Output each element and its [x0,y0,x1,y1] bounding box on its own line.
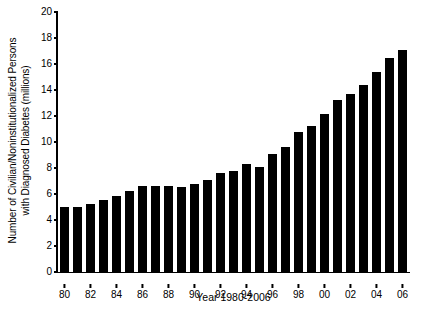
y-tick-mark [54,219,58,221]
bar [203,180,212,272]
y-tick-label: 6 [46,189,52,199]
y-tick-label: 12 [41,111,52,121]
x-tick-mark [168,284,170,288]
x-axis-title: Year 1980-2006 [58,291,409,303]
bar [242,164,251,272]
bar [255,167,264,272]
bar [73,207,82,272]
y-tick-label: 16 [41,59,52,69]
x-tick-mark [376,284,378,288]
y-axis-tick: 2 [46,241,58,251]
bar [333,100,342,272]
bar [216,173,225,272]
bar [268,154,277,272]
x-tick-mark [220,284,222,288]
bar [138,186,147,272]
y-axis-tick: 18 [41,33,58,43]
x-tick-mark [64,284,66,288]
bar [320,114,329,272]
y-tick-label: 2 [46,241,52,251]
x-tick-mark [324,284,326,288]
x-tick-mark [90,284,92,288]
bar [281,147,290,272]
y-tick-label: 0 [46,267,52,277]
y-tick-label: 4 [46,215,52,225]
y-tick-label: 10 [41,137,52,147]
bar [190,184,199,272]
x-tick-mark [194,284,196,288]
bar [385,58,394,272]
bar [307,126,316,272]
x-tick-mark [402,284,404,288]
bar [164,186,173,272]
bar [398,50,407,272]
x-tick-mark [350,284,352,288]
y-axis-tick: 6 [46,189,58,199]
bar [60,207,69,272]
y-axis-tick: 0 [46,267,58,277]
plot-area: 02468101214161820 8082848688909294969800… [58,12,409,272]
bar [346,94,355,272]
x-tick-mark [272,284,274,288]
y-axis-tick: 14 [41,85,58,95]
y-tick-label: 14 [41,85,52,95]
bar [99,200,108,272]
bar [294,132,303,272]
y-axis-title-line-2: with Diagnosed Diabetes (millions) [20,37,33,243]
y-tick-mark [54,193,58,195]
y-axis-tick: 4 [46,215,58,225]
bar [112,196,121,272]
y-axis-title-line-1: Number of Civilian/Noninstitutionalized … [8,37,21,243]
bar [372,72,381,272]
y-axis-tick: 20 [41,7,58,17]
y-tick-mark [54,89,58,91]
y-axis-tick: 16 [41,59,58,69]
bar [177,187,186,272]
y-axis-tick: 8 [46,163,58,173]
y-tick-mark [54,141,58,143]
y-tick-mark [54,115,58,117]
y-tick-label: 8 [46,163,52,173]
bar [125,191,134,272]
bar [151,186,160,272]
y-tick-mark [54,245,58,247]
y-tick-label: 20 [41,7,52,17]
y-axis-tick: 10 [41,137,58,147]
y-axis-title: Number of Civilian/Noninstitutionalized … [0,0,40,280]
y-axis-tick: 12 [41,111,58,121]
y-tick-mark [54,63,58,65]
bar [86,204,95,272]
x-tick-mark [298,284,300,288]
bar [229,171,238,272]
y-tick-label: 18 [41,33,52,43]
y-tick-mark [54,167,58,169]
x-tick-mark [142,284,144,288]
bar-chart-figure: Number of Civilian/Noninstitutionalized … [0,0,431,317]
x-tick-mark [116,284,118,288]
x-tick-mark [246,284,248,288]
y-tick-mark [54,11,58,13]
bar [359,85,368,272]
y-tick-mark [54,271,58,273]
y-tick-mark [54,37,58,39]
